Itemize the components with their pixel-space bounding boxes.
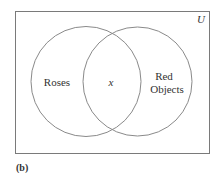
red-objects-label-line1: Red <box>155 70 173 82</box>
intersection-label: x <box>108 76 114 88</box>
red-objects-circle <box>83 27 192 136</box>
venn-diagram: U Roses x Red Objects (b) <box>0 0 218 173</box>
universe-label: U <box>197 13 206 25</box>
red-objects-label-line2: Objects <box>150 83 184 95</box>
roses-label: Roses <box>44 76 70 88</box>
figure-caption: (b) <box>16 162 28 173</box>
